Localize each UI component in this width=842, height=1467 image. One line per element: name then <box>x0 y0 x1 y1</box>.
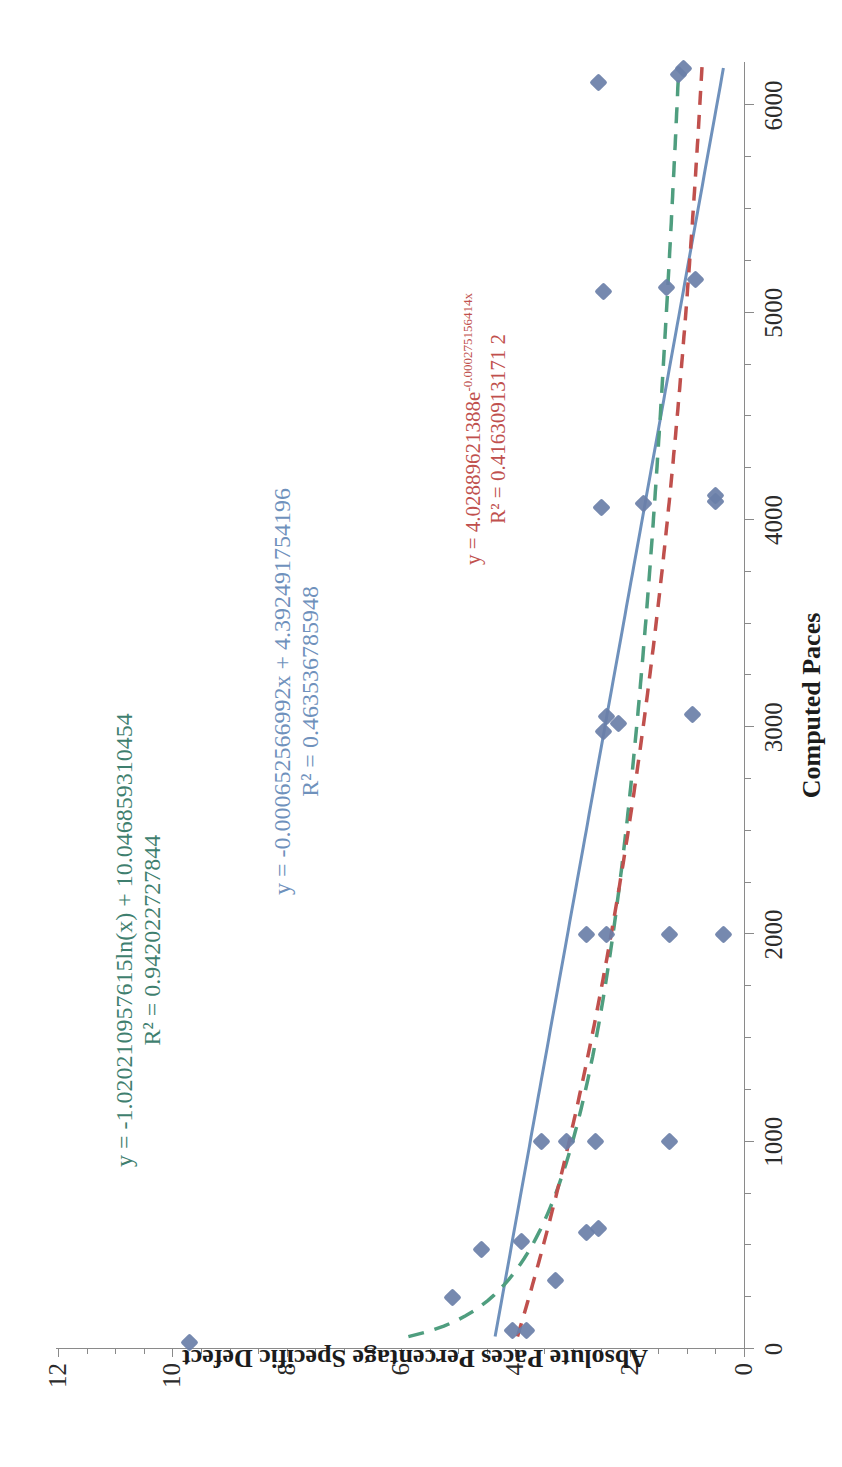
scatter-chart: 0100020003000400050006000 024681012 Comp… <box>0 0 842 1467</box>
data-point <box>683 706 701 724</box>
exponential-equation-prefix: y = 4.02889621388e <box>461 392 485 565</box>
x-tick <box>745 208 751 209</box>
data-point <box>518 1321 536 1339</box>
x-tick <box>745 571 751 572</box>
exponential-r2-text: R² = 0.41630913171 2 <box>486 293 511 565</box>
x-tick <box>745 1089 751 1090</box>
x-tick <box>745 778 751 779</box>
data-point <box>595 283 613 301</box>
data-point <box>635 494 653 512</box>
data-point <box>589 73 607 91</box>
logarithmic-equation-text: y = -1.020210957615ln(x) + 10.0468593104… <box>111 713 137 1167</box>
x-tick <box>745 1141 754 1142</box>
data-point <box>658 279 676 297</box>
x-tick-label: 6000 <box>760 80 788 130</box>
x-tick-label: 0 <box>760 1343 788 1356</box>
linear-equation-annotation: y = -0.000652566992x + 4.392491754196 R²… <box>268 488 325 895</box>
data-point <box>546 1271 564 1289</box>
x-tick <box>745 985 751 986</box>
data-point <box>660 1133 678 1151</box>
data-point <box>586 1133 604 1151</box>
data-point <box>715 925 733 943</box>
x-tick <box>745 674 751 675</box>
x-tick <box>745 104 754 105</box>
x-tick <box>745 1296 751 1297</box>
x-tick <box>745 364 751 365</box>
data-point <box>686 270 704 288</box>
x-tick <box>745 519 754 520</box>
x-tick <box>745 623 751 624</box>
x-tick <box>745 260 751 261</box>
chart-page: 0100020003000400050006000 024681012 Comp… <box>0 0 842 1467</box>
x-tick <box>745 1193 751 1194</box>
exponential-equation-exponent: -0.000275156414x <box>460 293 475 392</box>
data-point <box>592 498 610 516</box>
x-tick <box>745 1244 751 1245</box>
data-point <box>472 1240 490 1258</box>
x-axis-line <box>744 62 745 1349</box>
data-point <box>532 1133 550 1151</box>
logarithmic-equation-annotation: y = -1.020210957615ln(x) + 10.0468593104… <box>110 713 167 1167</box>
x-tick <box>745 1037 751 1038</box>
x-tick <box>745 467 751 468</box>
x-tick <box>745 882 751 883</box>
data-point <box>443 1288 461 1306</box>
x-tick-label: 3000 <box>760 702 788 752</box>
x-tick-label: 4000 <box>760 495 788 545</box>
y-tick-label: 12 <box>44 1363 72 1388</box>
data-point <box>660 925 678 943</box>
logarithmic-r2-text: R² = 0.942022727844 <box>138 713 166 1167</box>
x-tick <box>745 830 751 831</box>
x-tick <box>745 312 754 313</box>
data-point <box>558 1133 576 1151</box>
data-point <box>512 1232 530 1250</box>
x-tick <box>745 933 754 934</box>
x-tick-label: 2000 <box>760 909 788 959</box>
x-tick <box>745 415 751 416</box>
data-point <box>578 925 596 943</box>
exponential-equation-annotation: y = 4.02889621388e-0.000275156414x R² = … <box>460 293 511 565</box>
rotated-chart-wrapper: 0100020003000400050006000 024681012 Comp… <box>0 0 842 1467</box>
x-tick <box>745 156 751 157</box>
x-tick-label: 1000 <box>760 1117 788 1167</box>
x-tick <box>745 726 754 727</box>
y-tick <box>58 1348 59 1357</box>
linear-equation-text: y = -0.000652566992x + 4.392491754196 <box>269 488 295 895</box>
linear-r2-text: R² = 0.463536785948 <box>296 488 324 895</box>
data-point <box>598 925 616 943</box>
x-tick-label: 5000 <box>760 288 788 338</box>
x-axis-title: Computed Paces <box>797 62 827 1349</box>
